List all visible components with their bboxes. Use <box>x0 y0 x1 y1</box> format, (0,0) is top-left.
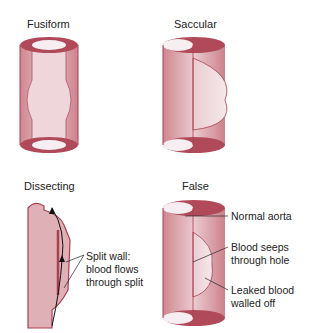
dissecting-vessel <box>28 203 84 328</box>
saccular-vessel <box>163 37 227 153</box>
normal-aorta-callout: Normal aorta <box>231 210 292 223</box>
dissecting-callout: Split wall: blood flows through split <box>86 250 143 289</box>
blood-seeps-callout: Blood seeps through hole <box>231 241 289 267</box>
dissecting-title: Dissecting <box>24 180 75 192</box>
false-vessel <box>163 200 228 326</box>
leaked-blood-callout: Leaked blood walled off <box>231 284 294 310</box>
false-title: False <box>182 180 209 192</box>
fusiform-vessel <box>20 37 78 153</box>
saccular-title: Saccular <box>174 18 217 30</box>
fusiform-title: Fusiform <box>27 18 70 30</box>
